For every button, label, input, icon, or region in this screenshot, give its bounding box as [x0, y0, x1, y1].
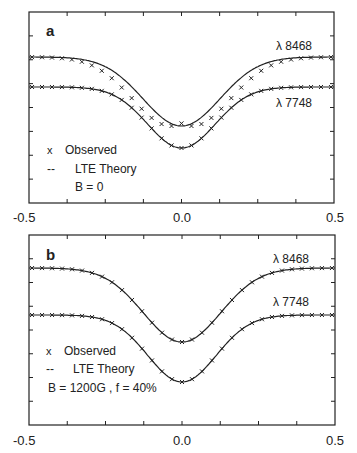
panel-a-observed-7748: [30, 85, 333, 150]
panel-b-legend-theory-symbol: --: [46, 362, 54, 376]
observed-point: [219, 107, 223, 111]
observed-point: [100, 69, 104, 73]
observed-point: [130, 96, 134, 100]
observed-point: [200, 331, 204, 335]
observed-point: [150, 358, 154, 362]
observed-point: [120, 327, 124, 331]
observed-point: [249, 76, 253, 80]
panel-b-label: b: [46, 246, 55, 263]
observed-point: [189, 124, 193, 128]
panel-b-xtick-right: 0.5: [326, 433, 344, 448]
observed-point: [140, 116, 144, 120]
observed-point: [259, 69, 263, 73]
observed-point: [110, 280, 114, 284]
panel-b-xtick-left: -0.5: [13, 433, 35, 448]
observed-point: [160, 122, 164, 126]
observed-point: [220, 309, 224, 313]
panel-a-legend-observed-symbol: x: [47, 144, 53, 156]
panel-b-line-label-7748: λ 7748: [273, 295, 309, 309]
observed-point: [160, 331, 164, 335]
panel-a-label: a: [46, 22, 55, 39]
observed-point: [150, 126, 154, 130]
observed-point: [210, 358, 214, 362]
panel-a-xtick-right: 0.5: [326, 210, 344, 225]
observed-point: [199, 122, 203, 126]
observed-point: [160, 136, 164, 140]
observed-point: [80, 60, 84, 64]
observed-point: [160, 369, 164, 373]
panel-a: a λ 8468 λ 7748 x Observed -- LTE Theory…: [13, 12, 344, 225]
observed-point: [239, 98, 243, 102]
panel-a-legend-observed: Observed: [65, 143, 117, 157]
figure: a λ 8468 λ 7748 x Observed -- LTE Theory…: [0, 0, 357, 453]
observed-point: [239, 86, 243, 90]
observed-point: [299, 56, 303, 60]
observed-point: [140, 107, 144, 111]
observed-point: [110, 76, 114, 80]
observed-point: [200, 369, 204, 373]
panel-b-line-label-8468: λ 8468: [273, 252, 309, 266]
panel-a-legend-theory: LTE Theory: [75, 162, 137, 176]
panel-a-legend-param: B = 0: [75, 180, 104, 194]
observed-point: [120, 98, 124, 102]
observed-point: [269, 63, 273, 67]
panel-b-legend-param: B = 1200G , f = 40%: [48, 381, 157, 395]
panel-b: b λ 8468 λ 7748 x Observed -- LTE Theory…: [13, 235, 344, 448]
panel-b-legend-observed-symbol: x: [46, 345, 52, 357]
observed-point: [140, 347, 144, 351]
observed-point: [130, 298, 134, 302]
panel-a-line-label-7748: λ 7748: [276, 96, 312, 110]
panel-a-theory-8468: [29, 57, 334, 126]
observed-point: [210, 321, 214, 325]
panel-b-legend-theory: LTE Theory: [73, 362, 135, 376]
observed-point: [220, 347, 224, 351]
observed-point: [130, 336, 134, 340]
observed-point: [120, 86, 124, 90]
panel-a-xtick-left: -0.5: [13, 210, 35, 225]
observed-point: [240, 288, 244, 292]
observed-point: [279, 60, 283, 64]
panel-a-line-label-8468: λ 8468: [276, 39, 312, 53]
observed-point: [130, 106, 134, 110]
observed-point: [229, 106, 233, 110]
observed-point: [150, 321, 154, 325]
observed-point: [250, 280, 254, 284]
observed-point: [230, 336, 234, 340]
observed-point: [140, 309, 144, 313]
observed-point: [150, 116, 154, 120]
observed-point: [219, 116, 223, 120]
observed-point: [180, 121, 184, 125]
observed-point: [199, 136, 203, 140]
observed-point: [209, 126, 213, 130]
panel-b-xtick-mid: 0.0: [173, 433, 191, 448]
observed-point: [209, 116, 213, 120]
observed-point: [170, 124, 174, 128]
panel-a-legend-theory-symbol: --: [47, 162, 55, 176]
observed-point: [120, 288, 124, 292]
observed-point: [90, 63, 94, 67]
observed-point: [229, 96, 233, 100]
observed-point: [230, 298, 234, 302]
panel-a-xtick-mid: 0.0: [173, 210, 191, 225]
panel-a-observed-8468: [30, 55, 333, 128]
observed-point: [190, 377, 194, 381]
panel-b-legend-observed: Observed: [64, 344, 116, 358]
observed-point: [240, 327, 244, 331]
observed-point: [170, 377, 174, 381]
